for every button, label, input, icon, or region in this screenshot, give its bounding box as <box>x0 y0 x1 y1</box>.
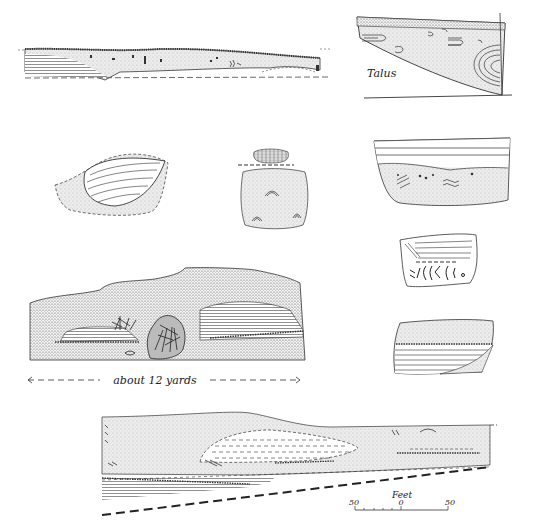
block-laminated <box>394 320 494 375</box>
talus-label: Talus <box>367 67 397 80</box>
long-section <box>102 412 497 515</box>
section-a <box>18 49 330 80</box>
section-wavy <box>374 138 510 206</box>
dimension-label: about 12 yards <box>113 374 197 387</box>
scale-tick-left: 50 <box>349 498 359 507</box>
section-talus: Talus <box>357 13 512 98</box>
arrow-right-icon <box>296 377 300 383</box>
width-dimension: about 12 yards <box>28 374 300 387</box>
outcrop-sketch: about 12 yards <box>28 268 305 387</box>
block-with-cap <box>238 149 308 229</box>
block-herringbone <box>400 234 477 287</box>
lens-crossbedded <box>55 154 168 215</box>
scale-bar: Feet 50 0 50 <box>349 490 455 510</box>
geologic-sections-plate: Talus <box>0 0 538 527</box>
scale-tick-right: 50 <box>445 498 455 507</box>
scale-tick-zero: 0 <box>398 498 403 507</box>
